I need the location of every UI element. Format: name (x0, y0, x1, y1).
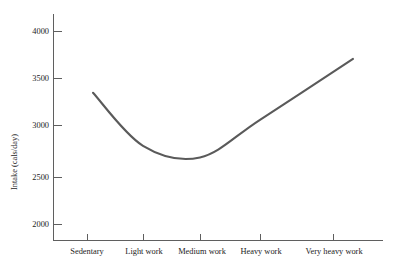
x-tick-label-light-work: Light work (125, 247, 163, 256)
chart-figure: Intake (cals/day) 4000 3500 3000 2500 20… (0, 0, 400, 271)
y-axis-label: Intake (cals/day) (10, 134, 19, 190)
y-tick-label-3000: 3000 (32, 121, 49, 130)
y-tick-label-4000: 4000 (32, 27, 49, 36)
y-tick-marks (54, 32, 62, 225)
y-tick-labels: 4000 3500 3000 2500 2000 (32, 27, 49, 229)
x-tick-label-medium-work: Medium work (178, 247, 226, 256)
y-tick-label-3500: 3500 (32, 74, 49, 83)
y-tick-label-2500: 2500 (32, 173, 49, 182)
x-tick-label-sedentary: Sedentary (70, 247, 104, 256)
intake-curve (93, 59, 353, 159)
line-chart: Intake (cals/day) 4000 3500 3000 2500 20… (0, 0, 400, 271)
x-tick-marks (88, 234, 334, 241)
x-tick-label-very-heavy-work: Very heavy work (305, 247, 363, 256)
x-tick-label-heavy-work: Heavy work (240, 247, 282, 256)
x-tick-labels: Sedentary Light work Medium work Heavy w… (70, 247, 363, 256)
y-tick-label-2000: 2000 (32, 220, 49, 229)
